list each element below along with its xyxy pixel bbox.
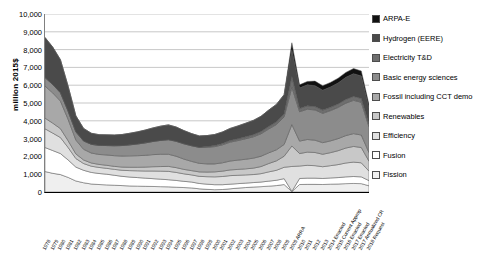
x-axis: 1978197919801981198219831984198519861987… (44, 193, 368, 253)
legend-item[interactable]: Renewables (372, 112, 424, 121)
y-axis-tick-label: 5,000 (2, 99, 42, 108)
y-axis-tick-label: 10,000 (2, 10, 42, 19)
legend-item[interactable]: Electricity T&D (372, 53, 432, 62)
legend-swatch-icon (372, 132, 380, 140)
legend-item-label: Fission (383, 170, 407, 179)
legend-item-label: Fusion (383, 151, 406, 160)
legend-item-label: ARPA-E (383, 14, 410, 23)
legend-swatch-icon (372, 151, 380, 159)
legend-item-label: Renewables (383, 112, 424, 121)
legend-swatch-icon (372, 73, 380, 81)
legend-swatch-icon (372, 15, 380, 23)
y-axis-tick-label: 9,000 (2, 27, 42, 36)
y-axis-tick-label: 4,000 (2, 116, 42, 125)
legend-item-label: Hydrogen (EERE) (383, 34, 443, 43)
legend-item-label: Fossil including CCT demo (383, 92, 472, 101)
y-axis-tick-label: 0 (2, 188, 42, 197)
chart-canvas (45, 14, 369, 192)
y-axis-tick-label: 8,000 (2, 45, 42, 54)
legend-item-label: Electricity T&D (383, 53, 432, 62)
y-axis-tick-label: 1,000 (2, 170, 42, 179)
chart-legend: ARPA-EHydrogen (EERE)Electricity T&DBasi… (372, 14, 488, 194)
y-axis-tick-label: 3,000 (2, 134, 42, 143)
legend-item[interactable]: ARPA-E (372, 14, 410, 23)
y-axis: million 2015$ 01,0002,0003,0004,0005,000… (0, 0, 42, 253)
legend-item[interactable]: Hydrogen (EERE) (372, 34, 443, 43)
legend-item[interactable]: Fossil including CCT demo (372, 92, 472, 101)
legend-swatch-icon (372, 54, 380, 62)
legend-swatch-icon (372, 171, 380, 179)
plot-area (44, 14, 369, 193)
y-axis-tick-label: 7,000 (2, 63, 42, 72)
legend-item-label: Basic energy sciences (383, 73, 458, 82)
y-axis-tick-label: 6,000 (2, 81, 42, 90)
legend-swatch-icon (372, 112, 380, 120)
y-axis-tick-label: 2,000 (2, 152, 42, 161)
legend-swatch-icon (372, 34, 380, 42)
legend-item[interactable]: Fusion (372, 151, 406, 160)
legend-item[interactable]: Basic energy sciences (372, 73, 458, 82)
legend-swatch-icon (372, 93, 380, 101)
stacked-area-chart: million 2015$ 01,0002,0003,0004,0005,000… (0, 0, 488, 253)
legend-item[interactable]: Fission (372, 170, 407, 179)
legend-item[interactable]: Efficiency (372, 131, 415, 140)
legend-item-label: Efficiency (383, 131, 415, 140)
